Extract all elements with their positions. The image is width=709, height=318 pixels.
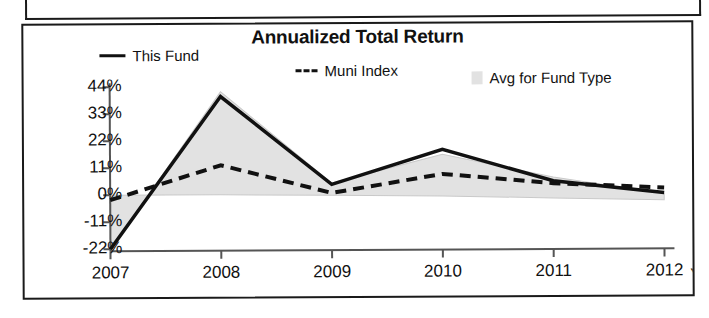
x-tick-label: 2008 — [202, 263, 240, 283]
x-tick-label: 2011 — [535, 261, 572, 281]
x-tick-label: 2007 — [92, 263, 130, 283]
x-tick-label: 2012 — [646, 260, 684, 280]
x-tick-label: 2010 — [424, 261, 462, 281]
ytd-label: YTD — [691, 265, 693, 281]
adjacent-panel-edge — [25, 0, 701, 20]
annualized-total-return-chart-panel: Annualized Total Return This Fund Muni I… — [21, 20, 694, 300]
x-tick-label: 2009 — [313, 262, 351, 282]
chart-inner: Annualized Total Return This Fund Muni I… — [23, 22, 692, 297]
x-axis-tick-labels: 200720082009201020112012YTD — [23, 22, 692, 297]
